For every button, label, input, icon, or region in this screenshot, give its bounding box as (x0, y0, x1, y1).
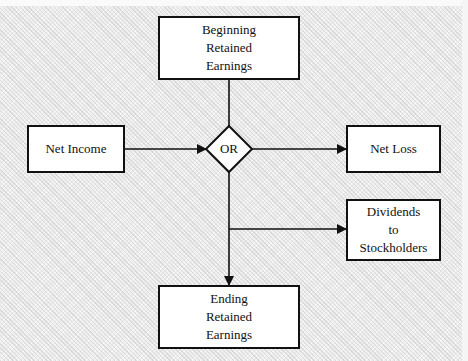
net-loss-box: Net Loss (346, 125, 441, 173)
beginning-retained-earnings-box: Beginning Retained Earnings (158, 16, 300, 80)
dividends-to-stockholders-box: Dividends to Stockholders (346, 199, 441, 261)
decision-label: OR (207, 140, 251, 158)
ending-retained-earnings-box: Ending Retained Earnings (158, 285, 300, 349)
net-income-box: Net Income (27, 125, 125, 173)
